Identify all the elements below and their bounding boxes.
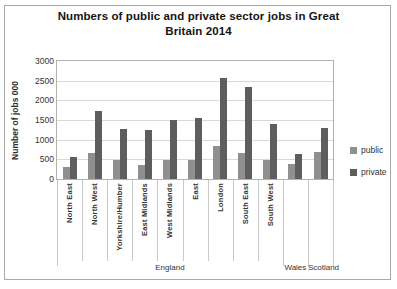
chart-title-line2: Britain 2014 (26, 24, 371, 39)
legend-swatch-icon (350, 147, 357, 154)
category-separator (308, 180, 309, 261)
x-category-label: South West (266, 183, 275, 226)
x-category-label: West Midlands (165, 183, 174, 238)
x-category-cell: North East (57, 183, 82, 253)
x-category-cell: Yorkshire/Humber (107, 183, 132, 253)
x-category-label: North West (90, 183, 99, 225)
bar-private-west-midlands (170, 120, 177, 179)
category-separator (333, 180, 334, 261)
legend-item-private: private (350, 168, 387, 177)
x-category-cell: West Midlands (157, 183, 182, 253)
bar-public-north-west (88, 153, 95, 179)
category-separator (283, 180, 284, 261)
y-tick-label: 2000 (12, 95, 54, 105)
x-category-cell: South West (258, 183, 283, 253)
legend-item-public: public (350, 146, 387, 155)
bar-public-yorkshire-humber (113, 160, 120, 179)
bar-public-east-midlands (138, 165, 145, 179)
x-group-label: Scotland (308, 263, 333, 273)
legend-label: private (361, 168, 387, 177)
bar-public-south-west (263, 160, 270, 179)
bar-public-north-east (63, 167, 70, 179)
y-tick-label: 3000 (12, 56, 54, 66)
y-tick-label: 0 (12, 174, 54, 184)
bar-private-yorkshire-humber (120, 129, 127, 179)
bar-public-scotland (314, 152, 321, 180)
x-category-label: Yorkshire/Humber (115, 183, 124, 251)
bar-private-south-west (270, 124, 277, 179)
bar-public-south-east (238, 153, 245, 179)
chart-title: Numbers of public and private sector job… (26, 9, 371, 39)
x-category-label: London (216, 183, 225, 212)
bar-private-wales (295, 154, 302, 179)
legend: publicprivate (350, 146, 387, 190)
bar-private-east (195, 118, 202, 179)
x-group-label: England (57, 263, 283, 273)
y-tick-label: 500 (12, 154, 54, 164)
bar-private-scotland (321, 128, 328, 179)
x-category-label: North East (65, 183, 74, 223)
x-category-label: South East (241, 183, 250, 224)
x-category-cell: East Midlands (132, 183, 157, 253)
bar-private-south-east (245, 87, 252, 179)
legend-label: public (361, 146, 383, 155)
gridline (57, 100, 333, 101)
bar-public-wales (288, 164, 295, 179)
y-tick-label: 2500 (12, 76, 54, 86)
y-tick-label: 1000 (12, 135, 54, 145)
x-group-label: Wales (283, 263, 308, 273)
x-category-label: East Midlands (140, 183, 149, 236)
y-tick-label: 1500 (12, 115, 54, 125)
bar-private-london (220, 78, 227, 179)
x-category-label: East (191, 183, 200, 200)
bar-public-london (213, 146, 220, 179)
bar-private-north-west (95, 111, 102, 179)
bar-private-east-midlands (145, 130, 152, 179)
bar-public-west-midlands (163, 160, 170, 179)
legend-swatch-icon (350, 169, 357, 176)
x-category-cell: North West (82, 183, 107, 253)
bar-public-east (188, 160, 195, 179)
x-category-cell: East (183, 183, 208, 253)
x-category-cell: London (208, 183, 233, 253)
gridline (57, 81, 333, 82)
bar-private-north-east (70, 157, 77, 179)
x-category-cell: South East (233, 183, 258, 253)
bar-chart: Numbers of public and private sector job… (0, 0, 397, 289)
chart-title-line1: Numbers of public and private sector job… (26, 9, 371, 24)
